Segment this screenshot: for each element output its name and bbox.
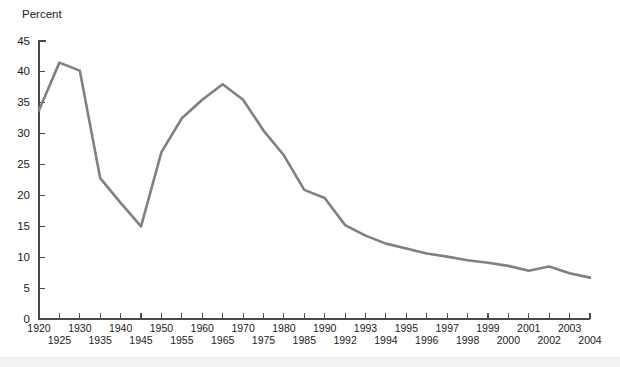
y-tick-label: 45	[17, 35, 30, 47]
x-axis-tick-marks	[39, 313, 590, 319]
percent-line-chart: Percent 051015202530354045 1920192519301…	[0, 0, 620, 367]
y-axis-title: Percent	[22, 8, 62, 20]
y-tick-label: 40	[17, 65, 30, 77]
x-tick-label: 1985	[293, 334, 317, 346]
x-tick-label: 2004	[578, 334, 602, 346]
chart-axes	[39, 41, 590, 319]
y-tick-label: 35	[17, 96, 30, 108]
x-tick-label: 1995	[395, 322, 419, 334]
x-tick-label: 1945	[129, 334, 153, 346]
axis-title-group: Percent	[22, 8, 62, 20]
x-axis-tick-labels: 1920192519301935194019451950195519601965…	[27, 322, 602, 346]
x-tick-label: 1997	[435, 322, 459, 334]
x-tick-label: 1970	[231, 322, 255, 334]
y-axis-tick-marks	[39, 41, 45, 288]
x-tick-label: 1930	[68, 322, 92, 334]
x-tick-label: 1998	[456, 334, 480, 346]
x-tick-label: 1950	[150, 322, 174, 334]
y-tick-label: 20	[17, 189, 30, 201]
x-tick-label: 1993	[354, 322, 378, 334]
data-series-line	[39, 63, 590, 278]
x-tick-label: 1996	[415, 334, 439, 346]
y-axis-tick-labels: 051015202530354045	[17, 35, 30, 325]
x-tick-label: 2001	[517, 322, 541, 334]
x-tick-label: 1935	[89, 334, 113, 346]
x-tick-label: 1992	[333, 334, 357, 346]
x-tick-label: 1940	[109, 322, 133, 334]
chart-container: Percent 051015202530354045 1920192519301…	[0, 0, 620, 367]
y-tick-label: 30	[17, 127, 30, 139]
x-tick-label: 1920	[27, 322, 51, 334]
y-tick-label: 5	[24, 282, 30, 294]
x-tick-label: 1975	[252, 334, 276, 346]
y-tick-label: 25	[17, 158, 30, 170]
bottom-edge-band	[0, 357, 620, 367]
y-tick-label: 15	[17, 220, 30, 232]
x-tick-label: 2000	[497, 334, 521, 346]
x-tick-label: 1965	[211, 334, 235, 346]
x-tick-label: 1990	[313, 322, 337, 334]
x-tick-label: 2003	[558, 322, 582, 334]
x-tick-label: 1960	[191, 322, 215, 334]
x-tick-label: 1980	[272, 322, 296, 334]
x-tick-label: 1999	[476, 322, 500, 334]
y-tick-label: 10	[17, 251, 30, 263]
x-tick-label: 1994	[374, 334, 398, 346]
x-tick-label: 1955	[170, 334, 194, 346]
x-tick-label: 1925	[48, 334, 72, 346]
x-tick-label: 2002	[538, 334, 562, 346]
